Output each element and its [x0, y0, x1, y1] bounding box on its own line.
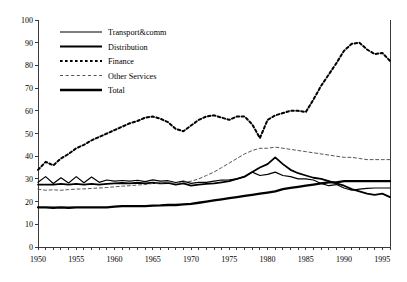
y-tick-label: 60	[25, 107, 33, 116]
y-tick-label: 10	[25, 220, 33, 229]
x-tick-label: 1975	[221, 255, 237, 264]
y-tick-label: 70	[25, 84, 33, 93]
legend-label: Total	[108, 86, 125, 95]
x-tick-label: 1950	[30, 255, 46, 264]
y-tick-label: 80	[25, 61, 33, 70]
y-tick-label: 100	[21, 16, 33, 25]
y-tick-label: 50	[25, 130, 33, 139]
legend-label: Other Services	[108, 72, 156, 81]
x-tick-label: 1960	[107, 255, 123, 264]
legend-label: Distribution	[108, 43, 148, 52]
chart-container: 0102030405060708090100 19501955196019651…	[0, 0, 407, 282]
y-axis: 0102030405060708090100	[21, 16, 38, 252]
y-tick-label: 20	[25, 198, 33, 207]
legend-label: Finance	[108, 57, 134, 66]
x-tick-label: 1970	[183, 255, 199, 264]
y-tick-label: 30	[25, 175, 33, 184]
x-tick-label: 1985	[298, 255, 314, 264]
y-tick-label: 0	[29, 243, 33, 252]
x-tick-label: 1995	[374, 255, 390, 264]
y-tick-label: 40	[25, 152, 33, 161]
legend-label: Transport&comm	[108, 28, 167, 37]
x-tick-label: 1955	[68, 255, 84, 264]
x-tick-label: 1965	[145, 255, 161, 264]
y-tick-label: 90	[25, 39, 33, 48]
plot-background	[38, 20, 390, 247]
line-chart: 0102030405060708090100 19501955196019651…	[0, 0, 407, 282]
x-tick-label: 1980	[260, 255, 276, 264]
x-tick-label: 1990	[336, 255, 352, 264]
